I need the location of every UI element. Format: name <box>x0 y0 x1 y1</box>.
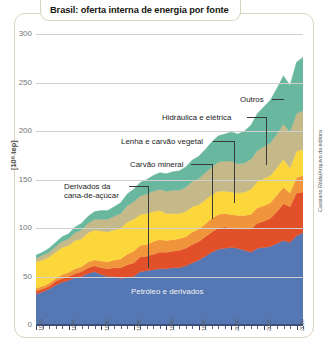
leader-line-hidraulica-v <box>266 117 267 165</box>
annotation-carvao-mineral: Carvão mineral <box>130 160 184 170</box>
leader-line-cana-h <box>129 186 149 187</box>
x-axis-tick-label: 1985 <box>136 319 142 331</box>
x-axis-tick-label: 1980 <box>104 319 110 331</box>
leader-line-carvao-v <box>212 164 213 219</box>
y-axis-tick-labels: 300250200150100500 <box>0 0 331 350</box>
annotation-hidraulica-e-eletrica: Hidráulica e elétrica <box>162 113 231 123</box>
annotation-derivados-cana: Derivados da cana-de-açúcar <box>64 182 119 200</box>
chart-figure: Brasil: oferta interna de energia por fo… <box>0 0 331 350</box>
annotation-derivados-cana-line1: Derivados da <box>64 182 119 191</box>
y-axis-tick-label: 100 <box>2 223 32 232</box>
x-axis-tick-label: 1990 <box>169 319 175 331</box>
x-axis-tick-label: 1995 <box>201 319 207 331</box>
leader-line-outros <box>272 99 284 100</box>
y-axis-tick-label: 0 <box>2 320 32 329</box>
leader-line-carvao-h <box>191 164 213 165</box>
y-axis-tick-label: 150 <box>2 175 32 184</box>
annotation-derivados-cana-line2: cana-de-açúcar <box>64 191 119 200</box>
leader-line-hidraulica-h <box>247 117 267 118</box>
leader-line-lenha-h <box>213 141 235 142</box>
y-axis-tick-label: 200 <box>2 126 32 135</box>
x-axis-tick-label: 2005 <box>266 319 272 331</box>
annotation-lenha-e-carvao-vegetal: Lenha e carvão vegetal <box>121 137 203 147</box>
image-credit: Cassiano Róda/Arquivo da editora <box>317 130 323 212</box>
x-axis-tick-label: 2010 <box>299 319 305 331</box>
y-axis-tick-label: 250 <box>2 78 32 87</box>
annotation-outros: Outros <box>240 95 264 105</box>
leader-line-cana-v <box>148 186 149 268</box>
page-title: Brasil: oferta interna de energia por fo… <box>50 5 229 15</box>
x-axis-tick-label: 2000 <box>234 319 240 331</box>
figure-title-tab: Brasil: oferta interna de energia por fo… <box>40 0 241 21</box>
x-axis-tick-label: 1970 <box>38 319 44 331</box>
leader-line-lenha-v <box>234 141 235 203</box>
x-axis-tick-label: 1975 <box>71 319 77 331</box>
annotation-petroleo-e-derivados: Petróleo e derivados <box>131 287 203 296</box>
y-axis-tick-label: 300 <box>2 29 32 38</box>
y-axis-tick-label: 50 <box>2 272 32 281</box>
